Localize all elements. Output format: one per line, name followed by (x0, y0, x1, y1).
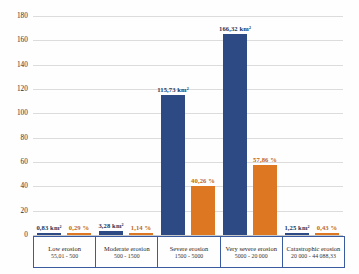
bar-area-km2[interactable]: 3,28 km² (99, 231, 123, 235)
bar-value-label: 3,28 km² (98, 222, 123, 229)
y-axis-tick-label: 180 (17, 12, 28, 20)
category-name: Catastrophic erosion (287, 245, 341, 252)
bar-value-label: 1,14 % (131, 224, 151, 231)
category-range: 55,01 - 500 (51, 253, 78, 259)
category-range: 1500 - 5000 (175, 253, 204, 259)
bar-share-percent[interactable]: 1,14 % (129, 233, 153, 235)
category-cell: Moderate erosion500 - 1500 (96, 237, 158, 267)
category-cell: Catastrophic erosion20 000 - 44 088,33 (283, 237, 344, 267)
bar-area-km2[interactable]: 1,25 km² (285, 233, 309, 235)
bar-group: 1,25 km²0,43 % (281, 17, 343, 235)
y-axis-tick-label: 80 (21, 134, 28, 142)
bar-value-label: 1,25 km² (284, 224, 309, 231)
bar-group: 0,83 km²0,29 % (33, 17, 95, 235)
bar-group: 115,73 km²40,26 % (157, 17, 219, 235)
y-axis-tick-label: 120 (17, 85, 28, 93)
bar-area-km2[interactable]: 115,73 km² (161, 95, 185, 235)
bars-layer: 0,83 km²0,29 %3,28 km²1,14 %115,73 km²40… (33, 17, 343, 235)
category-name: Low erosion (48, 245, 81, 252)
y-axis-tick-label: 60 (21, 158, 28, 166)
bar-value-label: 115,73 km² (157, 86, 189, 93)
bar-group: 3,28 km²1,14 % (95, 17, 157, 235)
bar-share-percent[interactable]: 0,43 % (315, 233, 339, 235)
bar-group: 166,32 km²57,86 % (219, 17, 281, 235)
category-name: Severe erosion (170, 245, 209, 252)
bar-share-percent[interactable]: 57,86 % (253, 165, 277, 235)
category-name: Very severe erosion (226, 245, 277, 252)
category-range: 5000 - 20 000 (235, 253, 268, 259)
y-axis-tick-label: 100 (17, 109, 28, 117)
erosion-bar-chart: 020406080100120140160180 0,83 km²0,29 %3… (0, 0, 359, 274)
bar-value-label: 57,86 % (253, 156, 277, 163)
y-axis-tick-label: 160 (17, 36, 28, 44)
category-cell: Low erosion55,01 - 500 (34, 237, 96, 267)
bar-area-km2[interactable]: 166,32 km² (223, 34, 247, 235)
bar-share-percent[interactable]: 0,29 % (67, 233, 91, 235)
category-label-table: Low erosion55,01 - 500Moderate erosion50… (33, 236, 345, 268)
category-cell: Severe erosion1500 - 5000 (158, 237, 220, 267)
category-range: 500 - 1500 (114, 253, 140, 259)
bar-area-km2[interactable]: 0,83 km² (37, 233, 61, 235)
bar-value-label: 0,43 % (317, 224, 337, 231)
bar-share-percent[interactable]: 40,26 % (191, 186, 215, 235)
bar-value-label: 0,83 km² (36, 224, 61, 231)
y-axis-tick-label: 20 (21, 207, 28, 215)
category-name: Moderate erosion (104, 245, 150, 252)
y-axis-tick-label: 0 (24, 231, 28, 239)
category-cell: Very severe erosion5000 - 20 000 (221, 237, 283, 267)
plot-area: 020406080100120140160180 0,83 km²0,29 %3… (33, 17, 343, 236)
y-axis-tick-label: 40 (21, 182, 28, 190)
category-range: 20 000 - 44 088,33 (291, 253, 336, 259)
bar-value-label: 40,26 % (191, 177, 215, 184)
bar-value-label: 0,29 % (69, 224, 89, 231)
y-axis-tick-label: 140 (17, 61, 28, 69)
bar-value-label: 166,32 km² (219, 25, 251, 32)
